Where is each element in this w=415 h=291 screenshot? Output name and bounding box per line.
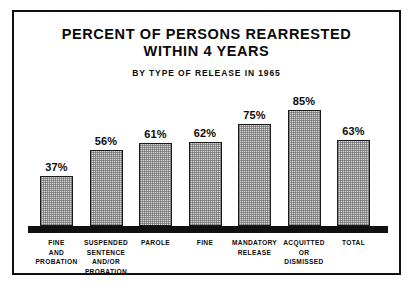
category-label-line: OR: [273, 248, 335, 258]
bar: [189, 142, 222, 226]
bar-value-label: 85%: [293, 95, 316, 107]
bar-value-label: 37%: [45, 161, 68, 173]
category-label-line: SENTENCE: [75, 248, 137, 258]
bar: [139, 143, 172, 226]
bar-column: 63%: [337, 140, 370, 226]
category-axis-labels: FINEANDPROBATIONSUSPENDEDSENTENCEAND/ORP…: [28, 238, 385, 284]
bar: [238, 124, 271, 226]
bar-column: 75%: [238, 124, 271, 226]
bar: [40, 176, 73, 226]
chart-subtitle: BY TYPE OF RELEASE IN 1965: [14, 68, 399, 78]
bar-column: 85%: [288, 110, 321, 226]
axis-baseline: [28, 226, 388, 233]
category-label: TOTAL: [323, 238, 385, 248]
category-label-line: TOTAL: [323, 238, 385, 248]
bar-value-label: 56%: [95, 135, 118, 147]
bar: [288, 110, 321, 226]
bar-value-label: 63%: [342, 125, 365, 137]
bar-column: 61%: [139, 143, 172, 226]
category-label-line: AND/OR: [75, 257, 137, 267]
chart-page: PERCENT OF PERSONS REARRESTED WITHIN 4 Y…: [0, 0, 415, 291]
bar-column: 56%: [90, 150, 123, 226]
bar-value-label: 62%: [194, 127, 217, 139]
chart-title: PERCENT OF PERSONS REARRESTED WITHIN 4 Y…: [14, 26, 399, 60]
bar-column: 62%: [189, 142, 222, 226]
plot-area: 37%56%61%62%75%85%63%: [28, 90, 385, 226]
chart-title-line-2: WITHIN 4 YEARS: [14, 43, 399, 60]
bar-value-label: 75%: [243, 109, 266, 121]
chart-title-line-1: PERCENT OF PERSONS REARRESTED: [14, 26, 399, 43]
bar-column: 37%: [40, 176, 73, 226]
category-label-line: PROBATION: [75, 267, 137, 277]
chart-frame-border: PERCENT OF PERSONS REARRESTED WITHIN 4 Y…: [12, 10, 401, 275]
category-label-line: DISMISSED: [273, 257, 335, 267]
bar: [337, 140, 370, 226]
bar: [90, 150, 123, 226]
bar-value-label: 61%: [144, 128, 167, 140]
